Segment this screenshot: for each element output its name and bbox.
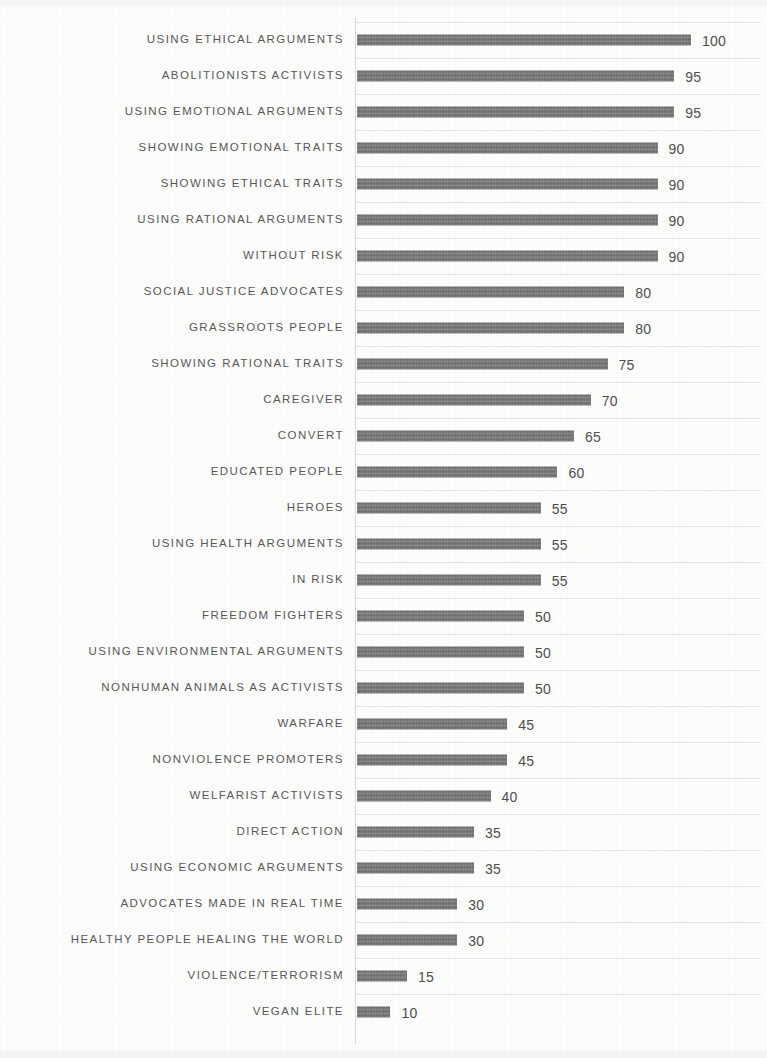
- bar: [357, 755, 507, 766]
- bar-row: IN RISK55: [0, 562, 767, 598]
- bar: [357, 323, 624, 334]
- bar: [357, 935, 457, 946]
- category-label: USING EMOTIONAL ARGUMENTS: [0, 106, 344, 118]
- bar-value-label: 90: [669, 177, 685, 191]
- bar: [357, 791, 491, 802]
- bar-row: WARFARE45: [0, 706, 767, 742]
- bar-row: HEALTHY PEOPLE HEALING THE WORLD30: [0, 922, 767, 958]
- bar-track: 50: [357, 611, 767, 622]
- bar: [357, 467, 557, 478]
- bar-value-label: 95: [685, 105, 701, 119]
- bar-track: 80: [357, 287, 767, 298]
- bar: [357, 143, 658, 154]
- bar-value-label: 35: [485, 825, 501, 839]
- bar-value-label: 55: [552, 537, 568, 551]
- bar-chart-page: USING ETHICAL ARGUMENTS100ABOLITIONISTS …: [0, 0, 767, 1058]
- bar-value-label: 50: [535, 609, 551, 623]
- bar-row: NONVIOLENCE PROMOTERS45: [0, 742, 767, 778]
- bar-row: WELFARIST ACTIVISTS40: [0, 778, 767, 814]
- category-label: IN RISK: [0, 574, 344, 586]
- bar-track: 45: [357, 755, 767, 766]
- category-label: WARFARE: [0, 718, 344, 730]
- bar-track: 70: [357, 395, 767, 406]
- gridline: [356, 166, 761, 167]
- bar-track: 65: [357, 431, 767, 442]
- gridline: [356, 346, 761, 347]
- bar-value-label: 55: [552, 501, 568, 515]
- bar: [357, 359, 608, 370]
- bar-value-label: 45: [518, 753, 534, 767]
- gridline: [356, 274, 761, 275]
- category-label: CONVERT: [0, 430, 344, 442]
- bar-track: 95: [357, 107, 767, 118]
- bar-track: 55: [357, 503, 767, 514]
- bar-track: 55: [357, 539, 767, 550]
- category-label: USING RATIONAL ARGUMENTS: [0, 214, 344, 226]
- bar-row: SHOWING EMOTIONAL TRAITS90: [0, 130, 767, 166]
- bar-value-label: 30: [468, 897, 484, 911]
- category-label: VEGAN ELITE: [0, 1006, 344, 1018]
- gridline: [356, 994, 761, 995]
- bar-value-label: 90: [669, 141, 685, 155]
- bar-row: DIRECT ACTION35: [0, 814, 767, 850]
- bar-value-label: 50: [535, 645, 551, 659]
- bar-row: USING ECONOMIC ARGUMENTS35: [0, 850, 767, 886]
- bar-track: 90: [357, 215, 767, 226]
- gridline: [356, 238, 761, 239]
- bar-row: ADVOCATES MADE IN REAL TIME30: [0, 886, 767, 922]
- gridline: [356, 814, 761, 815]
- bar-value-label: 50: [535, 681, 551, 695]
- gridline: [356, 706, 761, 707]
- bar: [357, 575, 541, 586]
- bar-value-label: 75: [619, 357, 635, 371]
- gridline: [356, 526, 761, 527]
- bar-row: GRASSROOTS PEOPLE80: [0, 310, 767, 346]
- bar: [357, 35, 691, 46]
- gridline: [356, 130, 761, 131]
- bar-row: SOCIAL JUSTICE ADVOCATES80: [0, 274, 767, 310]
- category-label: WITHOUT RISK: [0, 250, 344, 262]
- bar: [357, 647, 524, 658]
- bar-track: 50: [357, 647, 767, 658]
- gridline: [356, 454, 761, 455]
- bar-track: 15: [357, 971, 767, 982]
- bar-row: VEGAN ELITE10: [0, 994, 767, 1030]
- category-label: USING ECONOMIC ARGUMENTS: [0, 862, 344, 874]
- bar: [357, 719, 507, 730]
- bar-rows-container: USING ETHICAL ARGUMENTS100ABOLITIONISTS …: [0, 22, 767, 1030]
- bar: [357, 431, 574, 442]
- gridline: [356, 490, 761, 491]
- bar-track: 30: [357, 899, 767, 910]
- bar-value-label: 55: [552, 573, 568, 587]
- category-label: SOCIAL JUSTICE ADVOCATES: [0, 286, 344, 298]
- bar-value-label: 95: [685, 69, 701, 83]
- gridline: [356, 418, 761, 419]
- category-label: FREEDOM FIGHTERS: [0, 610, 344, 622]
- bar-row: SHOWING RATIONAL TRAITS75: [0, 346, 767, 382]
- gridline: [356, 94, 761, 95]
- bar-value-label: 10: [401, 1005, 417, 1019]
- bar: [357, 971, 407, 982]
- category-label: HEALTHY PEOPLE HEALING THE WORLD: [0, 934, 344, 946]
- bar-row: USING ETHICAL ARGUMENTS100: [0, 22, 767, 58]
- bar-track: 30: [357, 935, 767, 946]
- gridline: [356, 958, 761, 959]
- plot-area: USING ETHICAL ARGUMENTS100ABOLITIONISTS …: [0, 0, 767, 1058]
- bar-track: 90: [357, 143, 767, 154]
- bar-track: 100: [357, 35, 767, 46]
- bar: [357, 179, 658, 190]
- bar-row: USING EMOTIONAL ARGUMENTS95: [0, 94, 767, 130]
- bar-row: HEROES55: [0, 490, 767, 526]
- gridline: [356, 922, 761, 923]
- bar-track: 80: [357, 323, 767, 334]
- gridline: [356, 202, 761, 203]
- bar: [357, 611, 524, 622]
- gridline: [356, 850, 761, 851]
- category-label: GRASSROOTS PEOPLE: [0, 322, 344, 334]
- bar-value-label: 80: [635, 321, 651, 335]
- bar-value-label: 80: [635, 285, 651, 299]
- category-label: SHOWING ETHICAL TRAITS: [0, 178, 344, 190]
- gridline: [356, 562, 761, 563]
- bar: [357, 71, 674, 82]
- bar-row: NONHUMAN ANIMALS AS ACTIVISTS50: [0, 670, 767, 706]
